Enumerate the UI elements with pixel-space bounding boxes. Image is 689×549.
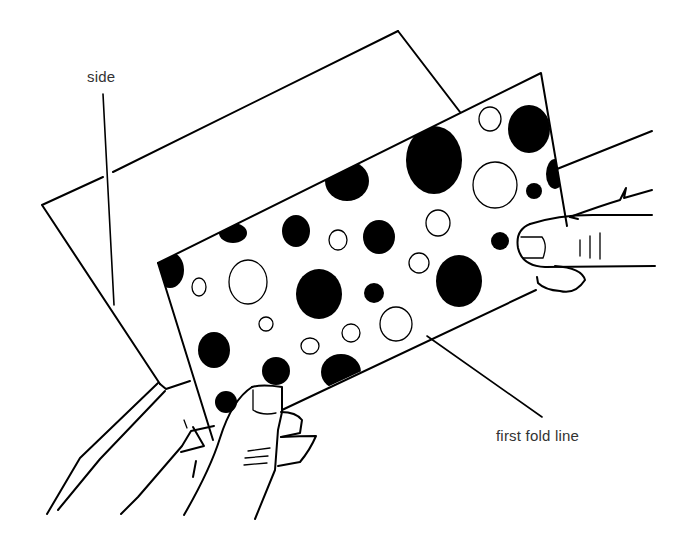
spotted-sheet xyxy=(156,73,567,440)
side-label: side xyxy=(87,68,115,85)
fold-leader-line xyxy=(427,336,542,417)
illustration: side first fold line xyxy=(0,0,689,549)
side-leader-line xyxy=(103,94,114,305)
first-fold-line-label: first fold line xyxy=(496,427,579,444)
